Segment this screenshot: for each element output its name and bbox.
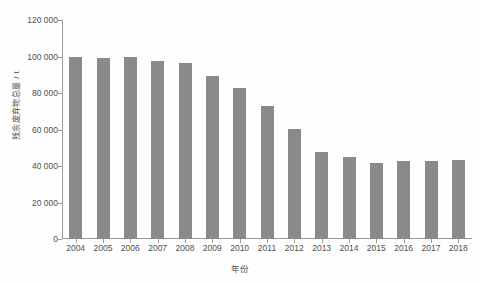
- y-tick-mark: [58, 20, 62, 21]
- bar: [206, 76, 219, 239]
- y-tick-mark: [58, 130, 62, 131]
- bar: [261, 106, 274, 239]
- y-tick-label: 20 000: [14, 198, 58, 208]
- bars-layer: [62, 20, 472, 239]
- y-tick-label: 40 000: [14, 161, 58, 171]
- bar: [288, 129, 301, 239]
- y-tick-label: 60 000: [14, 125, 58, 135]
- plot-area: [62, 20, 472, 239]
- bar: [233, 88, 246, 239]
- bar: [343, 157, 356, 239]
- y-tick-mark: [58, 239, 62, 240]
- y-tick-label: 80 000: [14, 88, 58, 98]
- bar: [315, 152, 328, 239]
- bar: [370, 163, 383, 239]
- y-tick-label: 100 000: [14, 52, 58, 62]
- x-tick-label: 2018: [438, 243, 478, 253]
- bar: [397, 161, 410, 239]
- bar: [179, 63, 192, 239]
- bar: [151, 61, 164, 239]
- bar: [97, 58, 110, 239]
- x-axis-title: 年份: [0, 262, 481, 274]
- bar: [452, 160, 465, 239]
- y-tick-mark: [58, 93, 62, 94]
- bar: [425, 161, 438, 239]
- y-axis-tick-labels: 020 00040 00060 00080 000100 000120 000: [14, 0, 58, 284]
- y-tick-label: 0: [14, 234, 58, 244]
- y-tick-mark: [58, 203, 62, 204]
- y-tick-mark: [58, 166, 62, 167]
- bar: [124, 57, 137, 240]
- y-tick-mark: [58, 57, 62, 58]
- bar: [69, 57, 82, 239]
- y-tick-label: 120 000: [14, 15, 58, 25]
- bar-chart: 残余废弃物总量 / t 020 00040 00060 00080 000100…: [0, 0, 481, 284]
- x-axis-tick-labels: 2004200520062007200820092010201120122013…: [62, 243, 472, 257]
